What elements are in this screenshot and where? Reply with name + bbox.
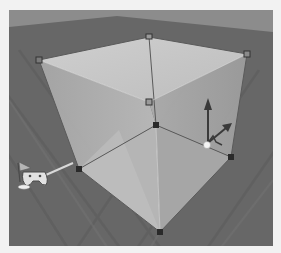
vertex-handle-top-left[interactable]: [36, 57, 42, 63]
vertex-handle-bottom-left[interactable]: [76, 166, 82, 172]
vertex-handle-center[interactable]: [153, 122, 159, 128]
scene-viewport[interactable]: [9, 10, 273, 246]
gizmo-origin-sphere[interactable]: [204, 142, 211, 149]
vertex-handle-top-front[interactable]: [146, 99, 152, 105]
vertex-handle-top-right[interactable]: [244, 51, 250, 57]
vertex-handle-top-back[interactable]: [146, 34, 152, 39]
player-start-base: [18, 185, 30, 189]
vertex-handle-bottom-front[interactable]: [157, 229, 163, 235]
vertex-handle-bottom-right[interactable]: [228, 154, 234, 160]
scene-canvas[interactable]: [9, 10, 273, 246]
